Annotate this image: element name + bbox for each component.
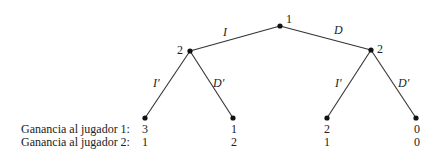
leaf-node-4	[413, 115, 418, 120]
edge-label-D: D	[333, 23, 343, 37]
edge-label-D-prime-right: D′	[397, 76, 410, 90]
left-decision-node	[187, 48, 192, 53]
payoff-leaf4-p2: 0	[414, 135, 420, 149]
leaf-node-3	[324, 115, 329, 120]
payoff-leaf4-p1: 0	[414, 122, 420, 136]
edge-right-leaf3	[327, 50, 371, 118]
right-decision-node	[368, 47, 373, 52]
payoff-leaf1-p1: 3	[142, 122, 148, 136]
payoff-leaf3-p2: 1	[324, 135, 330, 149]
edge-label-I-prime-right: I′	[334, 76, 342, 90]
payoff-leaf1-p2: 1	[142, 135, 148, 149]
edge-label-D-prime-left: D′	[212, 76, 225, 90]
left-player-label: 2	[177, 43, 183, 57]
right-player-label: 2	[377, 42, 383, 56]
game-tree-diagram: 1 2 2 I D I′ D′ I′ D′ Ganancia al jugado…	[0, 0, 443, 157]
leaf-node-2	[230, 115, 235, 120]
root-player-label: 1	[286, 12, 292, 26]
payoff-label-player1: Ganancia al jugador 1:	[21, 122, 130, 136]
edge-root-right	[280, 26, 371, 50]
edge-label-I-prime-left: I′	[152, 76, 160, 90]
payoff-leaf3-p1: 2	[324, 122, 330, 136]
edge-label-I: I	[222, 25, 228, 39]
payoff-leaf2-p2: 2	[231, 135, 237, 149]
payoff-leaf2-p1: 1	[231, 122, 237, 136]
payoff-label-player2: Ganancia al jugador 2:	[21, 135, 130, 149]
edge-left-leaf2	[190, 51, 233, 118]
root-node	[277, 23, 282, 28]
edge-root-left	[190, 26, 280, 51]
leaf-node-1	[142, 115, 147, 120]
edge-left-leaf1	[145, 51, 190, 118]
